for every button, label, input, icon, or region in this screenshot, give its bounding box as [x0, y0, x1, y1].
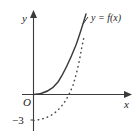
dashed-shifted-curve: [34, 37, 85, 121]
graph-figure: y x O −3 y = f(x): [0, 0, 138, 138]
coordinate-plot: y x O −3 y = f(x): [0, 0, 138, 138]
x-axis-arrowhead: [124, 91, 132, 98]
x-axis-label: x: [123, 98, 129, 110]
y-tick-label-minus-3: −3: [12, 114, 24, 126]
y-axis-label: y: [21, 12, 27, 24]
origin-label: O: [23, 96, 31, 108]
curve-label-fx: y = f(x): [90, 12, 122, 24]
y-axis-arrowhead: [30, 10, 37, 18]
solid-exponential-curve: [34, 14, 87, 95]
